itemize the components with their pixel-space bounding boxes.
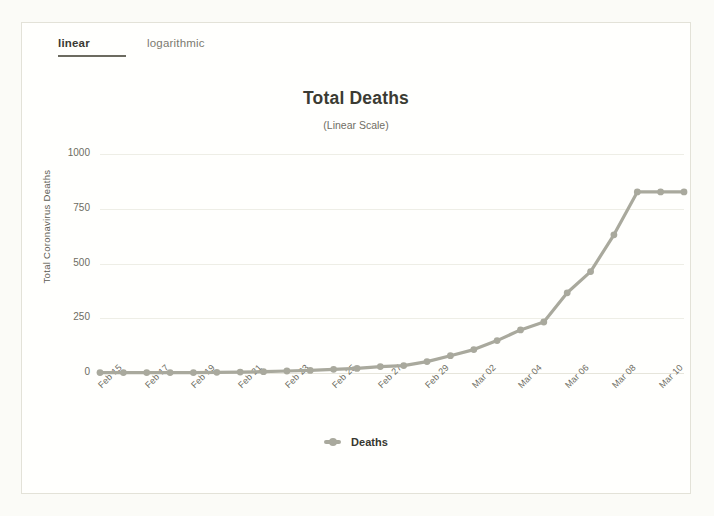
data-point[interactable] xyxy=(377,363,384,370)
chart-card: linear logarithmic Total Deaths (Linear … xyxy=(21,22,691,494)
data-point[interactable] xyxy=(447,352,454,359)
data-point[interactable] xyxy=(400,362,407,369)
data-point[interactable] xyxy=(564,289,571,296)
data-point[interactable] xyxy=(307,367,314,374)
page-root: linear logarithmic Total Deaths (Linear … xyxy=(0,0,714,516)
plot-area: Total Coronavirus Deaths 02505007501000F… xyxy=(22,23,692,495)
data-point[interactable] xyxy=(657,189,664,196)
data-point[interactable] xyxy=(634,189,641,196)
data-point[interactable] xyxy=(260,368,267,375)
legend-item-deaths[interactable]: Deaths xyxy=(324,435,388,448)
series-deaths xyxy=(22,23,692,495)
data-point[interactable] xyxy=(517,327,524,334)
series-line-deaths xyxy=(100,192,684,373)
data-point[interactable] xyxy=(120,369,127,376)
data-point[interactable] xyxy=(587,268,594,275)
data-point[interactable] xyxy=(494,337,501,344)
data-point[interactable] xyxy=(190,369,197,376)
data-point[interactable] xyxy=(213,369,220,376)
data-point[interactable] xyxy=(330,366,337,373)
data-point[interactable] xyxy=(167,369,174,376)
data-point[interactable] xyxy=(424,358,431,365)
chart-legend: Deaths xyxy=(22,435,690,448)
data-point[interactable] xyxy=(284,368,291,375)
legend-label-deaths: Deaths xyxy=(351,436,388,448)
legend-marker-icon xyxy=(324,440,341,444)
data-point[interactable] xyxy=(611,231,618,238)
data-point[interactable] xyxy=(540,319,547,326)
data-point[interactable] xyxy=(354,365,361,372)
data-point[interactable] xyxy=(237,369,244,376)
data-point[interactable] xyxy=(470,346,477,353)
data-point[interactable] xyxy=(681,189,688,196)
data-point[interactable] xyxy=(143,369,150,376)
data-point[interactable] xyxy=(97,369,104,376)
